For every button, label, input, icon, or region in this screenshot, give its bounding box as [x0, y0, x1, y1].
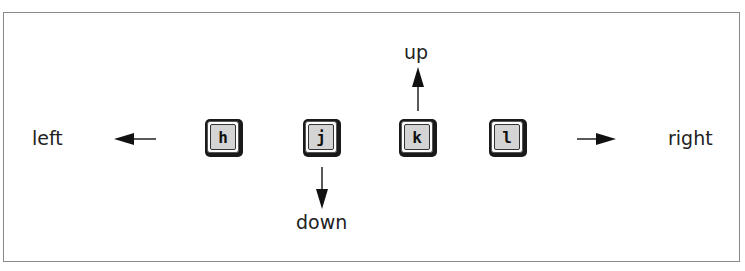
key-j-bezel: j: [305, 121, 337, 153]
key-h-bezel: h: [207, 121, 239, 153]
label-left: left: [32, 129, 63, 148]
label-up: up: [404, 43, 428, 62]
key-l-label: l: [494, 124, 520, 150]
key-j: j: [303, 119, 341, 157]
key-h: h: [205, 119, 243, 157]
key-k-bezel: k: [401, 121, 433, 153]
label-right: right: [668, 129, 713, 148]
key-k: k: [399, 119, 437, 157]
key-j-label: j: [308, 124, 334, 150]
key-k-label: k: [404, 124, 430, 150]
diagram-frame: [3, 12, 740, 262]
label-down: down: [296, 213, 347, 232]
key-l-bezel: l: [491, 121, 523, 153]
key-h-label: h: [210, 124, 236, 150]
key-l: l: [489, 119, 527, 157]
